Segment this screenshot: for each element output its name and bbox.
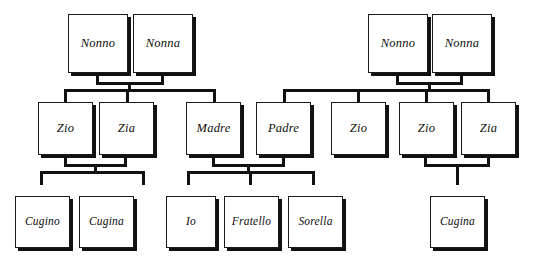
node-label: Cugina <box>89 216 124 228</box>
node-label: Nonno <box>81 37 115 50</box>
node-io: Io <box>166 196 216 248</box>
node-label: Zia <box>118 122 135 135</box>
node-label: Fratello <box>232 216 271 228</box>
connector-descent-to-cugina-2 <box>456 164 459 185</box>
node-label: Cugina <box>440 216 475 228</box>
node-label: Zio <box>57 122 74 135</box>
node-label: Io <box>186 216 196 228</box>
connector-stub-to-sorella <box>312 171 315 185</box>
node-fratello: Fratello <box>224 196 279 248</box>
node-zia-maternal: Zia <box>99 102 154 155</box>
connector-stub-to-madre <box>213 89 216 103</box>
node-label: Nonna <box>445 37 479 50</box>
connector-stub-to-io <box>187 171 190 185</box>
node-label: Sorella <box>298 216 332 228</box>
node-zio-maternal: Zio <box>38 102 93 155</box>
connector-stub-to-padre <box>283 89 286 103</box>
connector-sibling-bar-cugini <box>40 171 145 174</box>
node-sorella: Sorella <box>288 196 343 248</box>
node-cugina-paternal: Cugina <box>430 196 485 248</box>
node-nonna-paternal: Nonna <box>432 14 492 73</box>
connector-stub-to-zio-2 <box>357 89 360 103</box>
node-nonna-maternal: Nonna <box>133 14 193 73</box>
node-label: Padre <box>268 122 299 135</box>
connector-stub-to-zio-1 <box>64 89 67 103</box>
node-padre: Padre <box>256 102 311 155</box>
node-madre: Madre <box>186 102 241 155</box>
connector-stub-to-cugino <box>40 171 43 185</box>
node-zio-paternal-2: Zio <box>399 102 454 155</box>
node-zia-paternal: Zia <box>461 102 516 155</box>
node-label: Cugino <box>25 216 60 228</box>
connector-stub-to-zia-1 <box>126 89 129 103</box>
node-label: Zio <box>418 122 435 135</box>
node-label: Zio <box>350 122 367 135</box>
connector-sibling-bar-paternal <box>283 89 490 92</box>
node-nonno-maternal: Nonno <box>68 14 128 73</box>
node-zio-paternal-1: Zio <box>331 102 386 155</box>
node-cugino: Cugino <box>15 196 70 248</box>
connector-stub-to-cugina-1 <box>142 171 145 185</box>
node-label: Madre <box>197 122 231 135</box>
connector-stub-to-fratello <box>249 171 252 185</box>
family-tree-diagram: Nonno Nonna Nonno Nonna Zio Zia Madre Pa… <box>0 0 547 265</box>
node-label: Zia <box>480 122 497 135</box>
node-cugina-maternal: Cugina <box>79 196 134 248</box>
node-nonno-paternal: Nonno <box>368 14 428 73</box>
connector-sibling-bar-maternal <box>64 89 216 92</box>
connector-stub-to-zio-3 <box>425 89 428 103</box>
node-label: Nonna <box>146 37 180 50</box>
connector-stub-to-zia-2 <box>487 89 490 103</box>
node-label: Nonno <box>381 37 415 50</box>
